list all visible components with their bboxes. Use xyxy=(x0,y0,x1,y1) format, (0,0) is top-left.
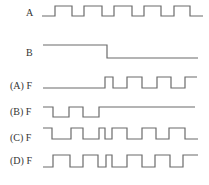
waveform-a xyxy=(42,6,203,16)
waveform-option-d-f xyxy=(43,155,198,167)
waveform-option-c-f xyxy=(43,128,198,139)
waveform-option-a-f xyxy=(43,77,197,88)
timing-waveforms xyxy=(0,0,209,185)
waveform-b xyxy=(43,45,198,58)
waveform-option-b-f xyxy=(43,107,195,117)
